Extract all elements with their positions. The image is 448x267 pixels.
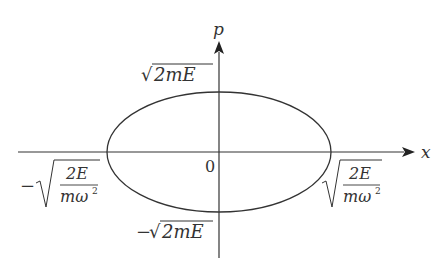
p-axis-label: p — [213, 19, 224, 39]
phase-space-diagram: x p 0 √ 2mE − √ 2mE − 2E mω 2 2E mω 2 — [0, 0, 448, 267]
x-max-label: 2E mω 2 — [322, 160, 382, 207]
svg-text:−: − — [20, 175, 35, 196]
svg-text:2E: 2E — [65, 164, 88, 183]
svg-text:mω: mω — [343, 187, 371, 206]
p-max-label: √ 2mE — [141, 64, 213, 85]
svg-text:2: 2 — [375, 186, 381, 196]
svg-text:mω: mω — [60, 187, 88, 206]
x-axis-label: x — [421, 142, 431, 162]
p-min-label: − √ 2mE — [136, 221, 213, 242]
x-min-label: − 2E mω 2 — [20, 160, 100, 207]
svg-text:√: √ — [149, 221, 161, 242]
svg-text:2mE: 2mE — [161, 221, 204, 242]
origin-label: 0 — [205, 157, 215, 176]
svg-text:2mE: 2mE — [153, 64, 196, 85]
svg-text:2E: 2E — [348, 164, 371, 183]
svg-text:2: 2 — [92, 186, 98, 196]
svg-text:√: √ — [141, 64, 153, 85]
